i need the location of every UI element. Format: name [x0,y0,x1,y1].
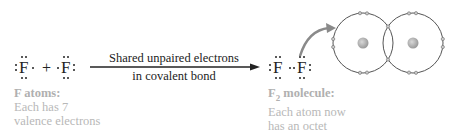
electrons [332,12,445,75]
left-nucleus [358,38,369,49]
diagram-graphics [0,0,463,133]
orbital-diagram [332,12,445,75]
curved-arrow-icon [300,23,336,56]
reaction-arrow [90,64,260,71]
right-nucleus [408,38,419,49]
